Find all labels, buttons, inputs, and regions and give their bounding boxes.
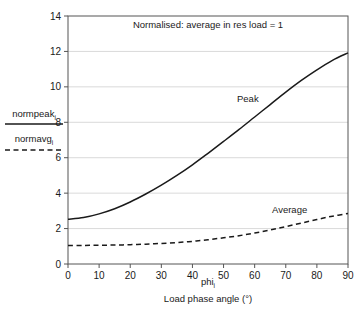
svg-text:80: 80 <box>311 270 323 281</box>
svg-text:60: 60 <box>249 270 261 281</box>
x-axis-symbol-subscript: i <box>214 282 215 289</box>
svg-text:14: 14 <box>50 11 62 22</box>
x-axis-title: Load phase angle (°) <box>164 293 252 304</box>
svg-text:10: 10 <box>94 270 106 281</box>
y-axis-numerator-text: normpeak <box>12 108 54 119</box>
svg-text:10: 10 <box>50 81 62 92</box>
svg-text:0: 0 <box>65 270 71 281</box>
series-label-peak: Peak <box>237 93 259 104</box>
svg-text:40: 40 <box>187 270 199 281</box>
series-label-average: Average <box>272 204 307 215</box>
chart-title: Normalised: average in res load = 1 <box>133 19 283 30</box>
svg-text:8: 8 <box>55 117 61 128</box>
svg-text:70: 70 <box>280 270 292 281</box>
svg-text:0: 0 <box>55 259 61 270</box>
svg-text:12: 12 <box>50 46 62 57</box>
svg-text:90: 90 <box>342 270 354 281</box>
svg-text:30: 30 <box>156 270 168 281</box>
svg-text:4: 4 <box>55 188 61 199</box>
y-axis-denominator-subscript: i <box>52 139 53 146</box>
svg-text:50: 50 <box>218 270 230 281</box>
svg-text:6: 6 <box>55 152 61 163</box>
y-axis-numerator-subscript: i <box>54 114 55 121</box>
x-axis-symbol-text: phi <box>201 276 214 287</box>
chart-figure: 0102030405060708090 02468101214 Normalis… <box>0 0 360 314</box>
svg-text:20: 20 <box>125 270 137 281</box>
svg-text:2: 2 <box>55 223 61 234</box>
y-axis-denominator-text: normavg <box>15 133 52 144</box>
